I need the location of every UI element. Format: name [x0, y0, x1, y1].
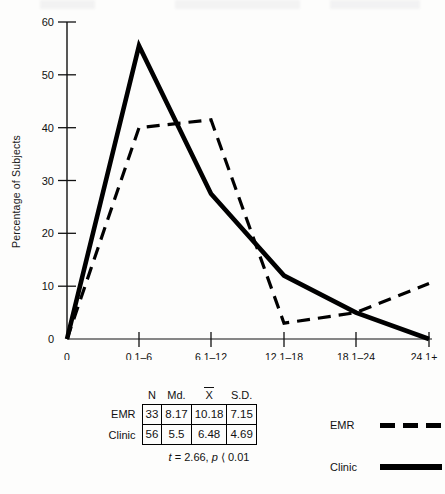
legend-swatch-dashed-icon: [380, 423, 442, 428]
table-header-sd: S.D.: [227, 388, 256, 405]
xbar-symbol: X: [205, 388, 212, 401]
y-tick-label-0: 0: [48, 333, 54, 345]
legend-swatch-solid-icon: [380, 464, 442, 470]
table-cell-clinic-md: 5.5: [162, 425, 191, 445]
y-tick-label-60: 60: [42, 16, 54, 28]
table-cell-emr-md: 8.17: [162, 405, 191, 425]
legend-item-clinic: Clinic: [330, 454, 442, 480]
table-cell-clinic-sd: 4.69: [227, 425, 256, 445]
table-row: EMR 33 8.17 10.18 7.15: [98, 405, 256, 425]
statistics-block: N Md. X S.D. EMR 33 8.17 10.18 7.15 Clin…: [98, 388, 294, 464]
table-cell-emr-n: 33: [142, 405, 162, 425]
table-row-label-clinic: Clinic: [98, 425, 142, 445]
p-value-text: ⟨ 0.01: [218, 451, 250, 463]
x-tick-label-6.1-12: 6.1–12: [195, 351, 227, 360]
t-test-footnote: t = 2.66, p ⟨ 0.01: [98, 451, 294, 464]
y-tick-label-40: 40: [42, 122, 54, 134]
x-tick-label-0: 0: [64, 351, 70, 360]
table-header-row: N Md. X S.D.: [98, 388, 256, 405]
table-cell-clinic-n: 56: [142, 425, 162, 445]
figure-container: 60 50 40 30 20 10 0 0 0.1–6 6.1–12 12.1–…: [0, 0, 445, 494]
table-header-md: Md.: [162, 388, 191, 405]
y-axis-title: Percentage of Subjects: [10, 118, 22, 248]
table-row-label-emr: EMR: [98, 405, 142, 425]
legend-label-clinic: Clinic: [330, 461, 374, 473]
line-chart: 60 50 40 30 20 10 0 0 0.1–6 6.1–12 12.1–…: [0, 0, 445, 360]
legend-label-emr: EMR: [330, 419, 374, 431]
table-header-xbar: X: [191, 388, 227, 405]
x-tick-label-18.1-24: 18.1–24: [337, 351, 375, 360]
y-tick-label-10: 10: [42, 280, 54, 292]
legend-item-emr: EMR: [330, 412, 442, 438]
chart-legend: EMR Clinic: [330, 412, 442, 494]
y-tick-label-30: 30: [42, 175, 54, 187]
x-tick-label-0.1-6: 0.1–6: [126, 351, 152, 360]
x-tick-label-12.1-18: 12.1–18: [265, 351, 303, 360]
series-line-emr: [67, 120, 429, 339]
y-tick-label-50: 50: [42, 69, 54, 81]
table-row: Clinic 56 5.5 6.48 4.69: [98, 425, 256, 445]
statistics-table: N Md. X S.D. EMR 33 8.17 10.18 7.15 Clin…: [98, 388, 257, 445]
y-tick-label-20: 20: [42, 227, 54, 239]
table-cell-clinic-mean: 6.48: [191, 425, 227, 445]
x-tick-label-24.1plus: 24.1+: [411, 351, 438, 360]
table-header-n: N: [142, 388, 162, 405]
series-line-clinic: [67, 46, 429, 339]
table-header-blank: [98, 388, 142, 405]
t-value-text: = 2.66,: [172, 451, 212, 463]
table-cell-emr-sd: 7.15: [227, 405, 256, 425]
chart-svg: 60 50 40 30 20 10 0 0 0.1–6 6.1–12 12.1–…: [0, 0, 445, 360]
table-cell-emr-mean: 10.18: [191, 405, 227, 425]
